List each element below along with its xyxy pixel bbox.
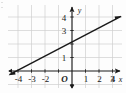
y-axis-label: y (77, 6, 82, 15)
graph-figure: -4 -3 -2 1 2 3 4 O x y 1 3 4 (0, 0, 126, 93)
x-axis-label: x (118, 75, 123, 84)
x-tick-label: 2 (97, 74, 102, 84)
x-tick-label: -3 (28, 74, 36, 84)
x-tick-label: 1 (84, 74, 89, 84)
coordinate-plane: -4 -3 -2 1 2 3 4 O x y 1 3 4 (0, 0, 126, 93)
origin-label: O (61, 74, 68, 84)
y-tick-label: 4 (62, 13, 67, 23)
x-tick-label: -4 (15, 74, 23, 84)
x-tick-label: -2 (42, 74, 50, 84)
y-tick-label: 1 (62, 53, 67, 63)
x-tick-label: 4 (111, 74, 116, 84)
y-tick-label: 3 (62, 26, 67, 36)
